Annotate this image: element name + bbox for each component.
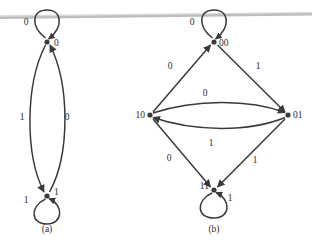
node-b-01: [285, 112, 290, 117]
edge-b-01-to-10: [153, 118, 285, 129]
edge-b-10-to-00: [153, 45, 211, 112]
edge-label-b-01-to-10: 1: [209, 138, 214, 148]
node-label-b-00: 00: [219, 38, 229, 48]
caption-b: (b): [208, 224, 219, 235]
node-label-b-10: 10: [136, 110, 146, 120]
caption-a: (a): [42, 224, 53, 235]
self-loop-label-b-00: 0: [190, 17, 195, 27]
node-b-11: [211, 187, 216, 192]
diagram-b: 00 10 01 11 0 1 0 1 0 1 0 1: [136, 10, 303, 218]
edge-label-b-10-to-11: 0: [167, 153, 172, 163]
edge-b-10-to-11: [153, 119, 211, 187]
node-label-b-11: 11: [200, 181, 209, 191]
node-label-a-0: 0: [54, 38, 59, 48]
edge-label-b-10-to-01: 0: [203, 88, 208, 98]
self-loop-label-b-11: 1: [228, 193, 233, 203]
edge-label-a-1-to-0: 0: [65, 112, 70, 122]
node-label-b-01: 01: [293, 110, 303, 120]
self-loop-a-1: [34, 199, 60, 225]
self-loop-label-a-1: 1: [24, 195, 29, 205]
node-label-a-1: 1: [54, 187, 59, 197]
edge-a-0-to-1: [30, 45, 46, 192]
node-a-1: [44, 193, 49, 198]
edge-label-b-00-to-01: 1: [256, 61, 261, 71]
scan-artifact-line: [0, 13, 312, 18]
state-diagram-figure: 0 1 0 1 1 0: [0, 0, 312, 243]
node-a-0: [44, 39, 49, 44]
edge-b-10-to-01: [153, 102, 285, 113]
figure-container: 0 1 0 1 1 0: [0, 0, 312, 243]
self-loop-a-0: [35, 10, 59, 39]
edge-a-1-to-0: [50, 45, 65, 192]
edge-b-01-to-11: [218, 119, 286, 187]
edge-label-b-10-to-00: 0: [168, 61, 173, 71]
edge-label-b-01-to-11: 1: [253, 155, 258, 165]
diagram-a: 0 1 0 1 1 0: [20, 10, 70, 224]
edge-label-a-0-to-1: 1: [20, 112, 25, 122]
node-b-00: [211, 39, 216, 44]
self-loop-b-11: [200, 193, 227, 219]
node-b-10: [147, 112, 152, 117]
self-loop-label-a-0: 0: [24, 17, 29, 27]
